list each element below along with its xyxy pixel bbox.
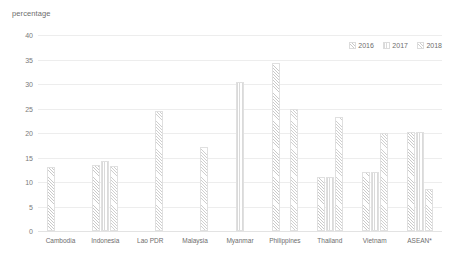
bar-groups: CambodiaIndonesiaLao PDRMalaysiaMyanmarP… — [38, 35, 442, 231]
bar[interactable] — [290, 109, 298, 231]
y-axis-tick-label: 5 — [29, 203, 33, 210]
bar[interactable] — [335, 117, 343, 231]
bars — [38, 35, 83, 231]
bars — [218, 35, 263, 231]
bars — [83, 35, 128, 231]
bar[interactable] — [407, 132, 415, 231]
bar[interactable] — [200, 147, 208, 231]
x-axis-tick-label: Indonesia — [83, 237, 128, 244]
bar[interactable] — [317, 177, 325, 231]
y-axis-tick-label: 10 — [25, 179, 33, 186]
y-axis-tick-label: 0 — [29, 228, 33, 235]
bar[interactable] — [92, 165, 100, 231]
x-axis-tick-label: ASEAN* — [397, 237, 442, 244]
bar[interactable] — [101, 161, 109, 231]
y-axis-tick-label: 20 — [25, 130, 33, 137]
x-axis-tick-label: Malaysia — [173, 237, 218, 244]
bar-group: Thailand — [307, 35, 352, 231]
bar[interactable] — [371, 172, 379, 231]
y-axis-tick-label: 30 — [25, 81, 33, 88]
plot-area: 0510152025303540 CambodiaIndonesiaLao PD… — [38, 35, 442, 231]
y-axis-tick-label: 40 — [25, 32, 33, 39]
bar[interactable] — [425, 189, 433, 231]
bars — [307, 35, 352, 231]
bar[interactable] — [47, 167, 55, 231]
bar[interactable] — [326, 177, 334, 231]
bars — [397, 35, 442, 231]
bar-group: Lao PDR — [128, 35, 173, 231]
bar[interactable] — [110, 166, 118, 231]
bars — [173, 35, 218, 231]
bar-group: Philippines — [262, 35, 307, 231]
x-axis-tick-label: Lao PDR — [128, 237, 173, 244]
x-axis-tick-label: Vietnam — [352, 237, 397, 244]
x-axis-tick-label: Philippines — [262, 237, 307, 244]
gridline — [38, 231, 442, 232]
x-axis-tick-label: Cambodia — [38, 237, 83, 244]
x-axis-tick-label: Thailand — [307, 237, 352, 244]
bar-group: Malaysia — [173, 35, 218, 231]
x-axis-tick-label: Myanmar — [218, 237, 263, 244]
bars — [128, 35, 173, 231]
y-axis-title: percentage — [12, 9, 51, 18]
bar[interactable] — [236, 82, 244, 231]
bar[interactable] — [362, 172, 370, 231]
bar[interactable] — [380, 133, 388, 231]
bar-group: Myanmar — [218, 35, 263, 231]
bar-group: Indonesia — [83, 35, 128, 231]
y-axis-tick-label: 15 — [25, 154, 33, 161]
bar-group: Vietnam — [352, 35, 397, 231]
bar-group: ASEAN* — [397, 35, 442, 231]
bar[interactable] — [155, 111, 163, 231]
bars — [262, 35, 307, 231]
bar-group: Cambodia — [38, 35, 83, 231]
chart-root: percentage 2016 2017 2018 05101520253035… — [0, 0, 450, 262]
y-axis-tick-label: 25 — [25, 105, 33, 112]
bar[interactable] — [416, 132, 424, 231]
y-axis-tick-label: 35 — [25, 56, 33, 63]
bars — [352, 35, 397, 231]
bar[interactable] — [272, 63, 280, 231]
